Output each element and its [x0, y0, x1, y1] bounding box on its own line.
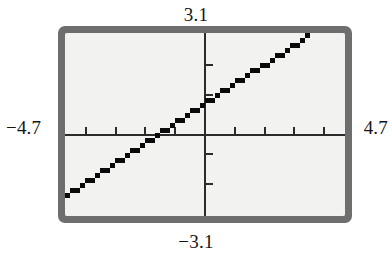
- line-pixel: [70, 188, 75, 193]
- line-pixel: [295, 43, 300, 48]
- line-pixel: [180, 118, 185, 123]
- line-pixel: [210, 98, 215, 103]
- y-min-label: −3.1: [0, 232, 392, 251]
- line-pixel: [185, 113, 190, 118]
- line-pixel: [305, 33, 310, 38]
- x-tick: [323, 127, 325, 134]
- line-pixel: [175, 118, 180, 123]
- y-tick: [206, 94, 213, 96]
- line-pixel: [275, 53, 280, 58]
- line-pixel: [165, 128, 170, 133]
- line-pixel: [100, 168, 105, 173]
- line-pixel: [80, 183, 85, 188]
- line-pixel: [235, 78, 240, 83]
- line-pixel: [125, 153, 130, 158]
- x-tick: [85, 127, 87, 134]
- line-pixel: [195, 108, 200, 113]
- x-min-label: −4.7: [6, 118, 41, 137]
- x-tick: [293, 127, 295, 134]
- graph-viewport: [65, 33, 345, 216]
- line-pixel: [150, 138, 155, 143]
- line-pixel: [160, 128, 165, 133]
- x-tick: [264, 127, 266, 134]
- y-tick: [206, 153, 213, 155]
- line-pixel: [285, 48, 290, 53]
- line-pixel: [120, 158, 125, 163]
- line-pixel: [260, 63, 265, 68]
- calculator-screenshot: 3.1 −4.7 4.7 −3.1: [0, 0, 392, 256]
- line-pixel: [265, 63, 270, 68]
- line-pixel: [270, 58, 275, 63]
- line-pixel: [280, 53, 285, 58]
- x-tick: [234, 127, 236, 134]
- line-pixel: [145, 138, 150, 143]
- line-pixel: [135, 148, 140, 153]
- line-pixel: [110, 163, 115, 168]
- line-pixel: [225, 88, 230, 93]
- line-pixel: [65, 193, 70, 198]
- x-tick: [174, 127, 176, 134]
- line-pixel: [300, 38, 305, 43]
- line-pixel: [95, 173, 100, 178]
- y-tick: [206, 64, 213, 66]
- line-pixel: [115, 158, 120, 163]
- x-max-label: 4.7: [364, 118, 388, 137]
- line-pixel: [245, 73, 250, 78]
- y-tick: [206, 183, 213, 185]
- line-pixel: [140, 143, 145, 148]
- x-tick: [115, 127, 117, 134]
- line-pixel: [255, 68, 260, 73]
- y-max-label: 3.1: [0, 5, 392, 24]
- line-pixel: [90, 178, 95, 183]
- line-pixel: [190, 108, 195, 113]
- line-pixel: [130, 148, 135, 153]
- line-pixel: [290, 43, 295, 48]
- line-pixel: [85, 178, 90, 183]
- line-pixel: [220, 88, 225, 93]
- line-pixel: [230, 83, 235, 88]
- y-axis: [204, 33, 206, 216]
- line-pixel: [250, 68, 255, 73]
- line-pixel: [75, 188, 80, 193]
- line-pixel: [240, 78, 245, 83]
- line-pixel: [215, 93, 220, 98]
- line-pixel: [105, 168, 110, 173]
- calculator-bezel: [58, 26, 352, 223]
- x-tick: [144, 127, 146, 134]
